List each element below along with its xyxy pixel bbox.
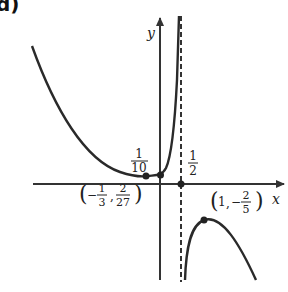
- svg-text:,: ,: [226, 196, 230, 210]
- svg-text:1: 1: [189, 149, 197, 163]
- svg-text:2: 2: [243, 189, 250, 202]
- y-intercept-label: 1 10: [131, 147, 148, 175]
- svg-text:1: 1: [135, 147, 143, 161]
- svg-text:5: 5: [243, 203, 250, 216]
- svg-text:): ): [134, 181, 143, 206]
- svg-text:27: 27: [116, 196, 130, 209]
- local-max-point: [201, 217, 208, 224]
- svg-text:−: −: [87, 188, 97, 202]
- local-max-label: ( 1 , − 2 5 ): [210, 188, 264, 216]
- svg-text:10: 10: [131, 161, 146, 175]
- asymptote-label: 1 2: [188, 149, 198, 178]
- svg-text:,: ,: [110, 189, 114, 203]
- svg-text:): ): [255, 188, 264, 213]
- y-axis-label: y: [146, 25, 156, 41]
- svg-text:3: 3: [99, 196, 106, 209]
- curve-left-branch: [32, 16, 179, 177]
- svg-text:−: −: [231, 195, 241, 209]
- svg-text:2: 2: [120, 182, 127, 195]
- local-min-label: ( − 1 3 , 2 27 ): [79, 181, 143, 209]
- svg-text:1: 1: [99, 182, 106, 195]
- svg-text:1: 1: [218, 195, 226, 209]
- x-axis-label: x: [272, 191, 280, 207]
- y-intercept-point: [157, 172, 164, 179]
- asymptote-intercept-point: [178, 181, 185, 188]
- curve-right-branch: [185, 219, 256, 280]
- svg-text:2: 2: [189, 164, 197, 178]
- function-graph: y x 1 10 1 2 ( − 1 3 , 2 27 ) ( 1 , − 2 …: [0, 0, 288, 292]
